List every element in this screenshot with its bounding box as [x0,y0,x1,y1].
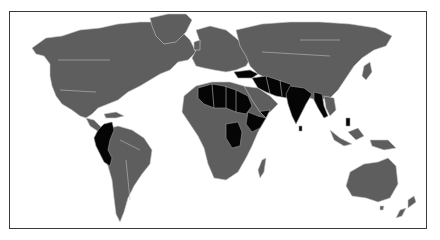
region-madagascar [258,158,266,178]
region-sri-lanka [299,126,302,131]
region-uk [194,40,200,50]
region-india [286,86,312,124]
region-new-zealand [396,196,416,218]
region-turkey [234,70,258,78]
world-map [0,0,440,240]
region-indonesia [330,128,396,150]
region-caribbean [104,112,124,118]
region-tasmania [380,206,384,210]
region-australia [346,158,398,202]
region-philippines [346,118,350,126]
region-japan [362,62,372,80]
